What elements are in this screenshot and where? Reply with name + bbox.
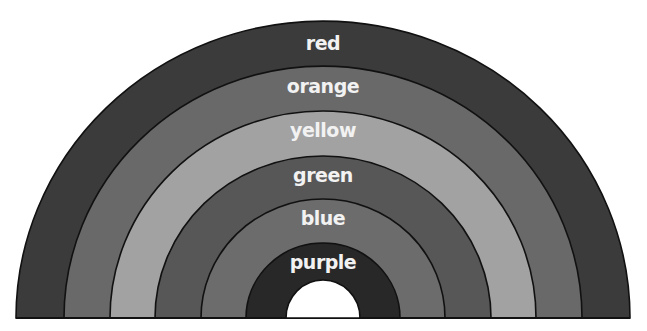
band-label-yellow: yellow <box>290 119 356 141</box>
rainbow-diagram: red orange yellow green blue purple <box>0 0 647 331</box>
band-label-blue: blue <box>301 207 346 229</box>
band-label-red: red <box>306 32 340 54</box>
band-label-purple: purple <box>290 251 357 273</box>
band-label-green: green <box>293 164 353 186</box>
band-label-orange: orange <box>287 75 359 97</box>
